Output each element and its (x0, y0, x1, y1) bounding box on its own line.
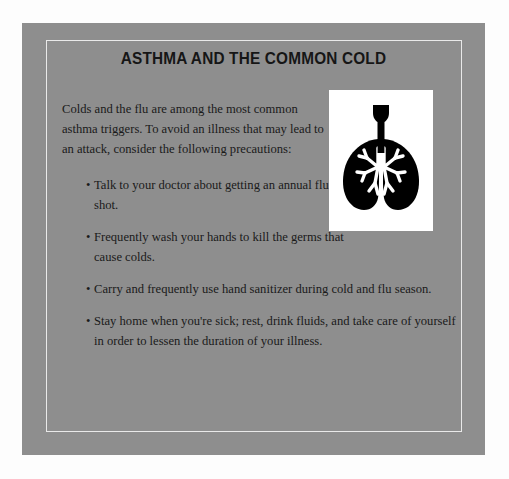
list-item: • Stay home when you're sick; rest, drin… (62, 311, 458, 351)
list-item-text: Talk to your doctor about getting an ann… (94, 178, 329, 212)
list-item: • Talk to your doctor about getting an a… (62, 175, 356, 215)
list-item-text: Carry and frequently use hand sanitizer … (94, 282, 431, 296)
card-content: ASTHMA AND THE COMMON COLD Colds and the… (22, 23, 485, 455)
asthma-info-card: ASTHMA AND THE COMMON COLD Colds and the… (22, 23, 485, 455)
intro-paragraph: Colds and the flu are among the most com… (62, 99, 330, 159)
bullet-icon: • (86, 175, 90, 195)
list-item: • Frequently wash your hands to kill the… (62, 227, 356, 267)
lungs-figure-panel (329, 90, 433, 231)
bullet-icon: • (86, 311, 90, 331)
list-item-text: Frequently wash your hands to kill the g… (94, 230, 344, 264)
lungs-icon (337, 101, 425, 221)
list-item-text: Stay home when you're sick; rest, drink … (94, 314, 456, 348)
bullet-icon: • (86, 227, 90, 247)
list-item: • Carry and frequently use hand sanitize… (62, 279, 458, 299)
page-title: ASTHMA AND THE COMMON COLD (38, 49, 469, 68)
bullet-icon: • (86, 279, 90, 299)
